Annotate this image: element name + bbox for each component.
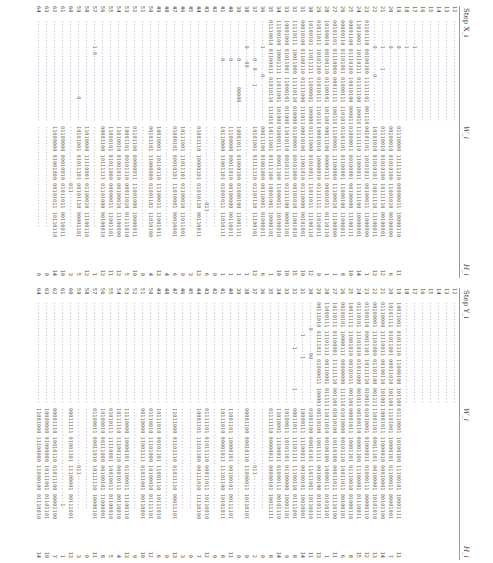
message-difference: -------------------------------- bbox=[259, 408, 267, 544]
step-index: 30 bbox=[307, 6, 315, 20]
table-row: 62--------------------------------110000… bbox=[51, 6, 59, 278]
step-index: 47 bbox=[171, 6, 179, 20]
state-difference: -------------------------------- bbox=[75, 302, 83, 406]
message-difference: 11001101 10000101 00100101 00111101 bbox=[227, 408, 235, 544]
state-difference: -------------------------------- bbox=[43, 20, 51, 124]
hamming-weight: 11 bbox=[331, 544, 339, 558]
table-row: 49--------------------------------100100… bbox=[155, 6, 163, 278]
table-row: 34--------------------------------110100… bbox=[275, 288, 283, 560]
table-row: 2510011111 11001010 00101011 00110010000… bbox=[347, 288, 355, 560]
hamming-weight: 10 bbox=[275, 262, 283, 276]
step-index: 38 bbox=[243, 288, 251, 302]
step-index: 59 bbox=[75, 6, 83, 20]
state-difference: ------------0------------------- bbox=[219, 20, 227, 124]
table-row: 48--------------------------------------… bbox=[163, 6, 171, 278]
message-difference bbox=[419, 126, 427, 262]
hamming-weight: 10 bbox=[59, 262, 67, 276]
state-difference: --------1----------------------- bbox=[411, 20, 419, 124]
step-index: 56 bbox=[99, 288, 107, 302]
state-difference: -------------------------------- bbox=[443, 302, 451, 406]
table-row: 12-------------------------------- bbox=[451, 6, 459, 278]
hamming-weight: 3 bbox=[179, 544, 187, 558]
state-difference: -------------------------------- bbox=[203, 20, 211, 124]
hamming-weight: 13 bbox=[123, 544, 131, 558]
step-index: 23 bbox=[363, 288, 371, 302]
message-difference: 01010100 10110100 00011011 11110100 bbox=[331, 408, 339, 544]
hamming-weight: 8 bbox=[339, 262, 347, 276]
step-x-label: Step X_i bbox=[462, 8, 470, 37]
step-index: 47 bbox=[171, 288, 179, 302]
hamming-weight: 6 bbox=[387, 262, 395, 276]
hamming-weight: 12 bbox=[363, 544, 371, 558]
hamming-weight: 14 bbox=[35, 544, 43, 558]
state-difference: -------------------------------- bbox=[155, 302, 163, 406]
state-difference: -------------------------------- bbox=[155, 20, 163, 124]
state-difference: 10100101 11011111 11000001 10000011 bbox=[307, 20, 315, 124]
table-row: 31----------1------1--------------100001… bbox=[299, 288, 307, 560]
hamming-weight: 9 bbox=[315, 262, 323, 276]
hamming-weight bbox=[435, 262, 443, 276]
table-row: 33--------------------------------101000… bbox=[283, 288, 291, 560]
state-difference: -------------------------------- bbox=[139, 20, 147, 124]
state-difference: -------------------------------- bbox=[419, 20, 427, 124]
table-row: 37--------------------------------------… bbox=[251, 288, 259, 560]
state-difference: -------------------------------- bbox=[35, 302, 43, 406]
hamming-weight: 8 bbox=[99, 544, 107, 558]
table-row: 48--------------------------------------… bbox=[163, 288, 171, 560]
state-difference: -------------------------------- bbox=[403, 302, 411, 406]
state-difference: 11110111 10011000 11110110 01000001 bbox=[291, 20, 299, 124]
table-row: 53--------------------------------111100… bbox=[123, 288, 131, 560]
table-row: 15-------------------------------- bbox=[427, 288, 435, 560]
state-difference: ------------------------0------- bbox=[75, 20, 83, 124]
state-difference: 11000111 11101111 00110001 01111101 bbox=[323, 302, 331, 406]
table-row: 39------------0--------00000------100010… bbox=[235, 6, 243, 278]
table-row: 14-------------------------------- bbox=[435, 288, 443, 560]
message-difference: 11000101 01011000 00000011 11001101 bbox=[107, 126, 115, 262]
message-difference: 10000111 11100011 00100101 10010001 bbox=[299, 408, 307, 544]
state-difference: 10100010 00100110 01100101 10110011 bbox=[323, 20, 331, 124]
step-index: 26 bbox=[339, 288, 347, 302]
hamming-weight: 13 bbox=[99, 262, 107, 276]
hamming-weight: 13 bbox=[155, 262, 163, 276]
state-difference: -------------------------------- bbox=[115, 302, 123, 406]
table-row: 13-------------------------------- bbox=[443, 288, 451, 560]
step-index: 36 bbox=[259, 288, 267, 302]
step-index: 17 bbox=[411, 6, 419, 20]
table-row: 50--------------------------------011100… bbox=[147, 288, 155, 560]
table-row: 2811000111 11101111 00110001 01111101110… bbox=[323, 288, 331, 560]
message-difference: -------------------------------- bbox=[211, 126, 219, 262]
message-difference: 10111010 00101101 11001110 10111010 bbox=[155, 408, 163, 544]
step-y-rows: 12--------------------------------13----… bbox=[35, 288, 459, 560]
table-row: 40--------------------------------110011… bbox=[227, 288, 235, 560]
hamming-weight bbox=[411, 544, 419, 558]
step-index: 49 bbox=[155, 288, 163, 302]
message-difference: 11101001 10000101 01100011 00001001 bbox=[387, 408, 395, 544]
step-index: 58 bbox=[83, 6, 91, 20]
state-difference: -------------------------------- bbox=[435, 302, 443, 406]
hamming-weight bbox=[443, 262, 451, 276]
hamming-weight: 1 bbox=[331, 262, 339, 276]
message-difference: 01100001 00101000 00101010 11001010 bbox=[291, 126, 299, 262]
message-difference: 10101010 01010101 10011110 11100011 bbox=[371, 126, 379, 262]
message-difference: 01001110 10000101 01010110 00110011 bbox=[195, 126, 203, 262]
step-index: 63 bbox=[43, 288, 51, 302]
message-difference: 00001100 10111111 01101000 00100010 bbox=[99, 126, 107, 262]
step-index: 16 bbox=[419, 6, 427, 20]
step-index: 25 bbox=[347, 288, 355, 302]
step-index: 17 bbox=[411, 288, 419, 302]
message-difference: 00110000 11001111 01011001 00110001 bbox=[139, 408, 147, 544]
table-row: 16-------------------------------- bbox=[419, 288, 427, 560]
step-index: 54 bbox=[115, 288, 123, 302]
hamming-weight: 14 bbox=[299, 544, 307, 558]
table-row: 2901011011 10101100 01010111 11011000100… bbox=[315, 6, 323, 278]
state-difference: -------------------------------- bbox=[427, 302, 435, 406]
hamming-weight: 13 bbox=[115, 262, 123, 276]
hamming-weight: 6 bbox=[171, 262, 179, 276]
hamming-weight bbox=[411, 262, 419, 276]
table-row: 35--------------------------------011111… bbox=[267, 288, 275, 560]
step-index: 44 bbox=[195, 6, 203, 20]
message-difference: 01000101 00010101 11010001 00010001 bbox=[171, 126, 179, 262]
state-difference: -------------------------------- bbox=[43, 302, 51, 406]
state-difference: -------------------------------- bbox=[411, 302, 419, 406]
step-index: 53 bbox=[123, 288, 131, 302]
